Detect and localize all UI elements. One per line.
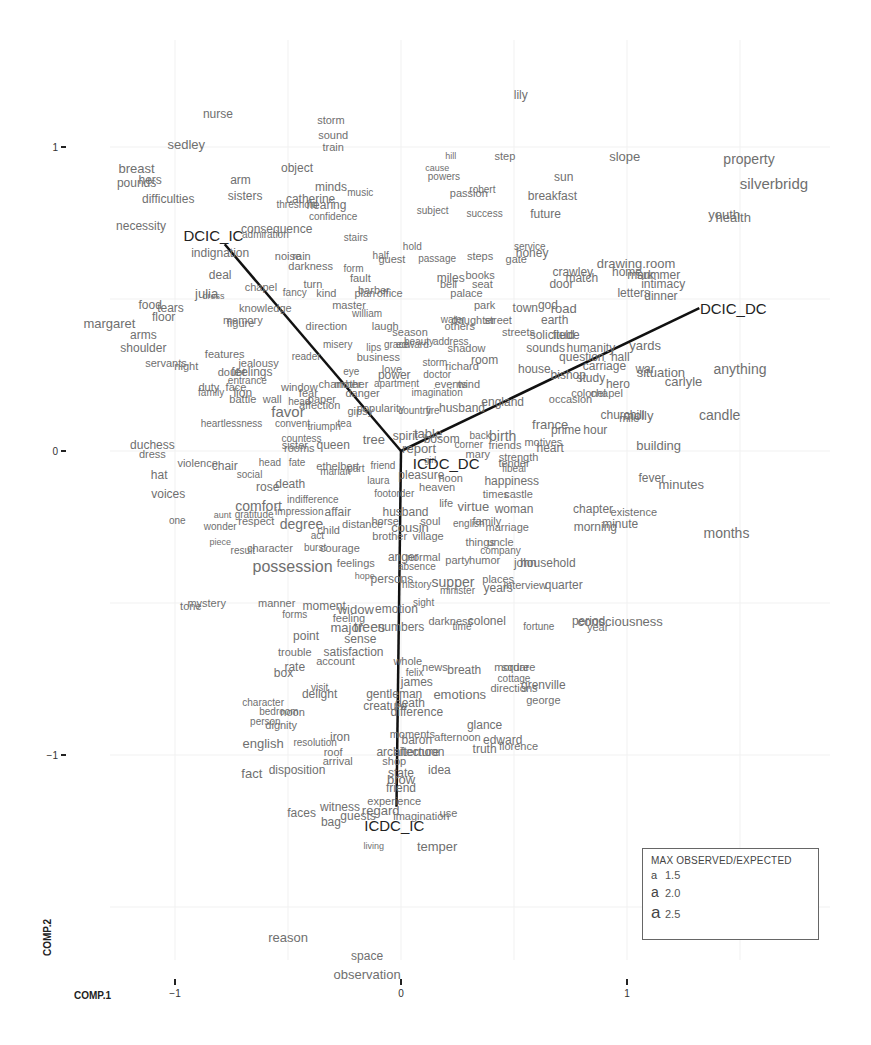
word-label: hour	[583, 424, 607, 436]
word-label: social	[237, 470, 263, 480]
word-label: virtue	[457, 499, 489, 512]
word-label: living	[364, 842, 385, 851]
word-label: wonder	[204, 522, 237, 532]
word-label: trouble	[278, 646, 312, 657]
word-label: time	[453, 622, 472, 632]
word-label: friend	[370, 461, 395, 471]
word-label: household	[520, 557, 575, 569]
legend-value: 2.5	[665, 908, 680, 920]
word-label: storm	[317, 114, 345, 125]
word-label: steps	[467, 251, 493, 262]
legend-glyph: a	[651, 869, 665, 881]
arrow-label: ICDC_IC	[364, 817, 424, 832]
word-label: observation	[333, 967, 400, 980]
word-label: quarter	[545, 579, 583, 591]
word-label: whole	[393, 655, 422, 666]
word-label: necessity	[116, 220, 166, 232]
word-label: absence	[398, 562, 436, 572]
word-label: tone	[180, 601, 201, 612]
biplot-chart: lilynursestormsoundtrainsedleyslopeprope…	[0, 0, 871, 1045]
word-label: manner	[258, 598, 295, 609]
word-label: reason	[268, 931, 308, 944]
word-label: faces	[287, 807, 316, 819]
word-label: earth	[541, 314, 568, 326]
word-label: news	[422, 661, 448, 672]
word-label: humor	[469, 555, 500, 566]
word-label: fibeal	[502, 464, 526, 474]
word-label: yards	[629, 338, 661, 351]
arrow-label: DCIC_DC	[700, 301, 767, 316]
word-label: william	[352, 309, 382, 319]
word-label: friends	[488, 439, 521, 450]
word-label: village	[413, 531, 444, 542]
word-label: fate	[289, 458, 306, 468]
arrow-label: DCIC_IC	[183, 228, 243, 243]
word-label: emotions	[433, 688, 486, 701]
word-label: sun	[554, 171, 573, 183]
word-label: reader	[292, 352, 321, 362]
word-label: gipsy	[347, 406, 373, 417]
word-label: florence	[499, 740, 538, 751]
word-label: slope	[609, 150, 640, 163]
word-label: affair	[324, 506, 350, 518]
word-label: account	[316, 655, 355, 666]
word-label: brother	[372, 531, 407, 542]
word-label: afternoon	[434, 731, 480, 742]
word-label: imagination	[412, 388, 463, 398]
word-label: study	[576, 372, 605, 384]
word-label: step	[495, 151, 516, 162]
word-label: tea	[338, 419, 352, 429]
word-label: prime	[551, 424, 581, 436]
y-axis-title: COMP.2	[42, 919, 53, 956]
word-label: death	[275, 478, 305, 490]
legend-glyph: a	[651, 903, 665, 923]
word-label: anything	[714, 362, 767, 376]
word-label: country	[398, 406, 431, 416]
word-label: hold	[403, 242, 422, 252]
word-label: castle	[504, 488, 533, 499]
word-label: respect	[238, 515, 274, 526]
word-label: dignity	[265, 719, 297, 730]
word-label: possession	[252, 559, 332, 575]
word-label: dinner	[644, 290, 677, 302]
word-label: hat	[151, 469, 168, 481]
word-label: interview	[504, 579, 547, 590]
word-label: friend	[386, 782, 416, 794]
word-label: arrival	[323, 756, 353, 767]
word-label: indifference	[287, 495, 339, 505]
word-label: fact	[241, 767, 262, 780]
word-label: temper	[417, 840, 457, 853]
word-label: party	[445, 555, 469, 566]
word-label: stairs	[344, 233, 368, 243]
word-label: night	[174, 360, 198, 371]
word-label: truth	[473, 743, 497, 755]
word-label: nurse	[203, 108, 233, 120]
word-label: business	[357, 351, 400, 362]
word-label: music	[347, 188, 373, 198]
word-label: triumph	[307, 422, 340, 432]
legend-glyph: a	[651, 884, 665, 900]
word-label: others	[444, 321, 475, 332]
word-label: emotion	[375, 603, 418, 615]
word-label: convent	[275, 419, 310, 429]
word-label: part	[347, 464, 364, 474]
word-label: rooms	[284, 442, 315, 453]
word-label: point	[293, 630, 319, 642]
word-label: street	[484, 315, 512, 326]
legend-entry: a 2.0	[651, 884, 810, 900]
word-label: happiness	[484, 475, 539, 487]
word-label: sisters	[228, 190, 263, 202]
word-label: figure	[227, 318, 255, 329]
legend-value: 2.0	[665, 887, 680, 899]
word-label: eye	[343, 367, 359, 377]
word-label: fault	[350, 272, 371, 283]
word-label: edward	[396, 340, 429, 350]
word-label: arm	[230, 174, 251, 186]
word-label: feelings	[337, 558, 375, 569]
word-label: building	[636, 438, 681, 451]
word-label: soul	[420, 515, 440, 526]
word-label: hers	[138, 174, 161, 186]
word-label: fancy	[283, 288, 307, 298]
word-label: square	[502, 661, 536, 672]
y-tick-label: 0	[52, 446, 58, 457]
